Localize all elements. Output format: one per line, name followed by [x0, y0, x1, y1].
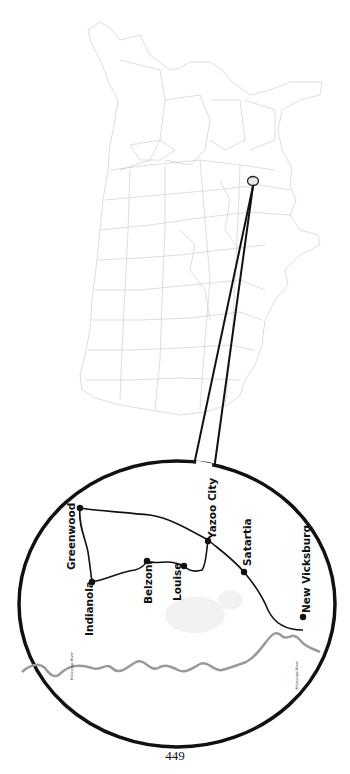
- city-dot-greenwood: [77, 505, 83, 511]
- city-label-satartia: Satartia: [241, 518, 253, 566]
- river-label-east: Mississippi River: [295, 660, 299, 689]
- inset-map: Greenwood Indianola Belzoni Louise Yazoo…: [19, 461, 335, 747]
- us-outline-map: [80, 22, 322, 415]
- city-label-belzoni: Belzoni: [142, 561, 154, 604]
- city-label-yazoo-city: Yazoo City: [206, 478, 218, 540]
- city-label-louise: Louise: [171, 563, 183, 601]
- city-dot-new-vicksburg: [300, 614, 306, 620]
- river-label-west: Mississippi River: [70, 651, 74, 680]
- locator-circle-marker: [248, 177, 259, 186]
- city-label-new-vicksburg: New Vicksburg: [300, 525, 312, 613]
- callout-lines: [194, 186, 253, 470]
- page-number: 449: [0, 748, 350, 764]
- map-figure: Greenwood Indianola Belzoni Louise Yazoo…: [0, 0, 350, 774]
- city-dot-satartia: [241, 569, 247, 575]
- city-label-indianola: Indianola: [83, 581, 95, 636]
- city-label-greenwood: Greenwood: [65, 503, 77, 570]
